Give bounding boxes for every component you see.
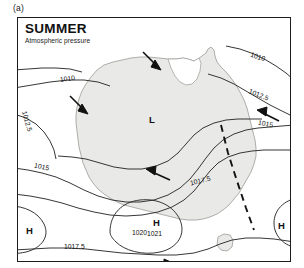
low-pressure-symbol-interior: L [149,115,155,125]
map-title: SUMMER [25,22,90,36]
high-pressure-symbol-west: H [26,226,33,236]
weather-map: SUMMER Atmospheric pressure L H 1021 H H… [17,17,291,262]
isobar-label-1017p5-south: 1017.5 [64,244,85,251]
isobar-label-1020-bight: 1020 [132,230,147,237]
figure-panel: (a) [0,0,304,268]
panel-label: (a) [13,3,24,13]
title-block: SUMMER Atmospheric pressure [25,22,90,44]
high-pressure-value-bight: 1021 [147,231,162,238]
high-pressure-symbol-east: H [278,221,285,231]
high-pressure-symbol-bight: H [153,218,160,228]
map-subtitle: Atmospheric pressure [25,38,90,45]
